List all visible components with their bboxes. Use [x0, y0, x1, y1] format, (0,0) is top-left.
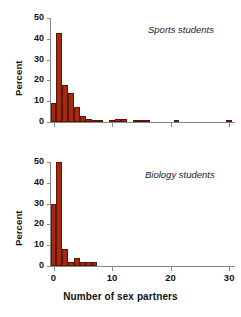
- panel-sports-students: Percent 01020304050 Sports students: [0, 0, 241, 150]
- y-tick-biology-10: [47, 245, 50, 246]
- x-tick-label-30: 30: [217, 272, 241, 283]
- x-tick-sports-0: [54, 123, 55, 127]
- x-tick-biology-20: [171, 267, 172, 271]
- y-tick-biology-50: [47, 162, 50, 163]
- x-tick-biology-0: [54, 267, 55, 271]
- y-tick-sports-0: [47, 122, 50, 123]
- y-tick-biology-20: [47, 224, 50, 225]
- x-tick-label-20: 20: [159, 272, 183, 283]
- y-tick-sports-30: [47, 60, 50, 61]
- y-tick-sports-40: [47, 39, 50, 40]
- histogram-bar: [97, 120, 103, 122]
- histogram-bar: [144, 120, 150, 122]
- x-tick-sports-10: [112, 123, 113, 127]
- y-tick-sports-20: [47, 80, 50, 81]
- y-tick-sports-10: [47, 101, 50, 102]
- x-tick-biology-10: [112, 267, 113, 271]
- histogram-bar: [174, 120, 180, 122]
- x-tick-label-10: 10: [100, 272, 124, 283]
- x-tick-sports-20: [171, 123, 172, 127]
- x-tick-sports-30: [229, 123, 230, 127]
- y-tick-biology-0: [47, 266, 50, 267]
- y-tick-label-sports-0: 0: [18, 116, 44, 126]
- y-tick-biology-40: [47, 183, 50, 184]
- y-tick-label-sports-20: 20: [18, 74, 44, 84]
- y-tick-label-biology-30: 30: [18, 198, 44, 208]
- y-tick-label-sports-50: 50: [18, 12, 44, 22]
- y-tick-label-biology-0: 0: [18, 260, 44, 270]
- y-tick-label-sports-40: 40: [18, 33, 44, 43]
- panel-label-biology: Biology students: [145, 169, 215, 180]
- x-axis-line-biology: [50, 266, 235, 267]
- y-tick-label-biology-40: 40: [18, 177, 44, 187]
- x-axis-title: Number of sex partners: [0, 291, 241, 302]
- panel-label-sports: Sports students: [148, 24, 214, 35]
- histogram-bar: [226, 120, 232, 122]
- histogram-bar: [92, 262, 98, 266]
- y-tick-label-sports-30: 30: [18, 54, 44, 64]
- x-axis-line-sports: [50, 122, 235, 123]
- y-tick-sports-50: [47, 18, 50, 19]
- x-tick-biology-30: [229, 267, 230, 271]
- panel-biology-students: Percent 010203040500102030 Biology stude…: [0, 150, 241, 317]
- y-tick-label-sports-10: 10: [18, 95, 44, 105]
- y-tick-biology-30: [47, 204, 50, 205]
- x-tick-label-0: 0: [42, 272, 66, 283]
- y-tick-label-biology-20: 20: [18, 218, 44, 228]
- y-tick-label-biology-50: 50: [18, 156, 44, 166]
- histogram-bar: [121, 119, 127, 122]
- y-tick-label-biology-10: 10: [18, 239, 44, 249]
- figure-two-panel-histogram: Percent 01020304050 Sports students Perc…: [0, 0, 241, 317]
